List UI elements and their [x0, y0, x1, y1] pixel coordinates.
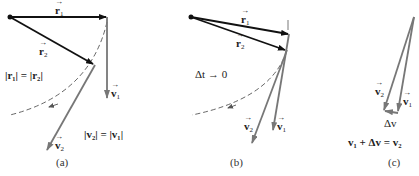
label-v1-b: v1 — [277, 121, 286, 134]
label-v2-b: v2 — [244, 121, 253, 134]
caption-b: (b) — [230, 157, 243, 168]
label-v2-a: v2 — [55, 140, 64, 153]
label-v1-a: v1 — [111, 88, 120, 101]
circular-path-b — [192, 58, 284, 115]
equation-r-magnitude: |r₁| = |r₂| — [5, 70, 43, 81]
label-v1-c: v1 — [403, 96, 412, 109]
label-delta-v: Δv — [384, 118, 397, 129]
caption-c: (c) — [388, 157, 400, 168]
label-r2-b: r2 — [236, 38, 244, 51]
label-r1-a: r1 — [55, 5, 63, 18]
equation-velocity-sum: v₁ + Δv = v₂ — [348, 137, 402, 148]
r2-vector-a — [10, 17, 93, 64]
label-v2-c: v2 — [375, 86, 384, 99]
delta-v-vector-c — [385, 111, 398, 113]
caption-a: (a) — [56, 157, 68, 168]
label-r1-b: r1 — [241, 14, 249, 27]
label-r2-a: r2 — [39, 46, 47, 59]
equation-v-magnitude: |v₂| = |v₁| — [84, 129, 123, 140]
label-limit: Δt → 0 — [195, 69, 227, 80]
